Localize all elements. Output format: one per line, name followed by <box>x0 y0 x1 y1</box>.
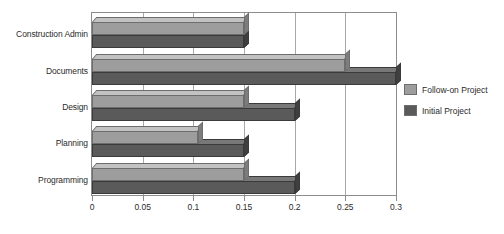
category-axis: Construction AdminDocumentsDesignPlannin… <box>0 0 88 234</box>
bar-front-face <box>92 181 295 194</box>
bar-planning-follow-on-project <box>92 131 198 144</box>
bar-design-initial-project <box>92 108 295 121</box>
x-tick <box>295 196 296 201</box>
bar-side-face <box>244 135 249 158</box>
category-label: Design <box>62 102 88 112</box>
bar-front-face <box>92 59 345 72</box>
bar-documents-initial-project <box>92 72 396 85</box>
bar-side-face <box>396 62 401 85</box>
category-label: Documents <box>46 66 88 76</box>
legend-label: Initial Project <box>422 106 471 116</box>
category-label: Programming <box>38 175 88 185</box>
bar-front-face <box>92 144 244 157</box>
legend-swatch <box>404 105 417 116</box>
bar-front-face <box>92 72 396 85</box>
bar-planning-initial-project <box>92 144 244 157</box>
legend-label: Follow-on Project <box>422 85 488 95</box>
x-tick <box>193 196 194 201</box>
legend-item: Initial Project <box>404 105 504 116</box>
x-tick <box>92 196 93 201</box>
legend-item: Follow-on Project <box>404 84 504 95</box>
bar-programming-follow-on-project <box>92 168 244 181</box>
bar-chart: Construction AdminDocumentsDesignPlannin… <box>0 0 504 234</box>
x-axis: 00.050.10.150.20.250.3 <box>91 196 397 204</box>
bar-side-face <box>295 98 300 121</box>
x-tick <box>396 196 397 201</box>
x-tick <box>143 196 144 201</box>
bar-construction-admin-initial-project <box>92 35 244 48</box>
category-label: Construction Admin <box>16 29 88 39</box>
gridline <box>345 13 346 195</box>
x-tick-label: 0.05 <box>134 202 151 212</box>
plot-inner <box>92 13 396 195</box>
x-tick <box>244 196 245 201</box>
bar-design-follow-on-project <box>92 95 244 108</box>
chart-legend: Follow-on ProjectInitial Project <box>404 84 504 126</box>
bar-documents-follow-on-project <box>92 59 345 72</box>
x-tick-label: 0.25 <box>337 202 354 212</box>
bar-construction-admin-follow-on-project <box>92 22 244 35</box>
x-tick-label: 0.2 <box>289 202 301 212</box>
x-tick <box>345 196 346 201</box>
bar-programming-initial-project <box>92 181 295 194</box>
x-tick-label: 0.3 <box>390 202 402 212</box>
x-tick-label: 0 <box>90 202 95 212</box>
bar-front-face <box>92 131 198 144</box>
x-tick-label: 0.15 <box>236 202 253 212</box>
bar-front-face <box>92 95 244 108</box>
bar-front-face <box>92 108 295 121</box>
bar-side-face <box>295 171 300 194</box>
bar-front-face <box>92 22 244 35</box>
legend-swatch <box>404 84 417 95</box>
x-tick-label: 0.1 <box>187 202 199 212</box>
bar-front-face <box>92 168 244 181</box>
category-label: Planning <box>56 138 88 148</box>
bar-front-face <box>92 35 244 48</box>
plot-area <box>91 12 397 196</box>
